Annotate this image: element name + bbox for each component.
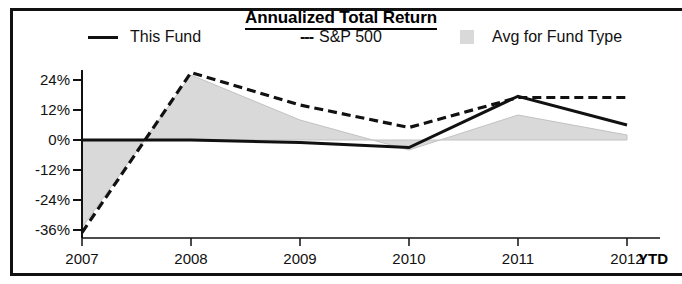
y-axis-labels: 24%12%0%-12%-24%-36% xyxy=(0,0,70,284)
axis-ticks xyxy=(73,80,627,246)
series-avg-for-fund-type xyxy=(82,75,627,228)
y-axis-tick-label: 12% xyxy=(12,101,70,118)
x-axis-tick-label: 2009 xyxy=(283,250,316,267)
y-axis-tick-label: -12% xyxy=(12,161,70,178)
chart-screenshot: Annualized Total Return This Fund --- S&… xyxy=(0,0,682,284)
chart-axes xyxy=(82,70,660,238)
y-axis-tick-label: -36% xyxy=(12,221,70,238)
chart-svg xyxy=(0,0,682,284)
y-axis-tick-label: -24% xyxy=(12,191,70,208)
plot-area: 24%12%0%-12%-24%-36% 2007200820092010201… xyxy=(0,0,682,284)
x-axis-tick-label: 2008 xyxy=(174,250,207,267)
x-axis-tick-label: 2010 xyxy=(392,250,425,267)
x-axis-tick-label: 2007 xyxy=(65,250,98,267)
x-axis-tick-label: 2011 xyxy=(502,250,534,267)
series-sp500 xyxy=(82,73,627,233)
x-axis-ytd-note: YTD xyxy=(638,250,668,267)
y-axis-tick-label: 24% xyxy=(12,71,70,88)
y-axis-tick-label: 0% xyxy=(12,131,70,148)
